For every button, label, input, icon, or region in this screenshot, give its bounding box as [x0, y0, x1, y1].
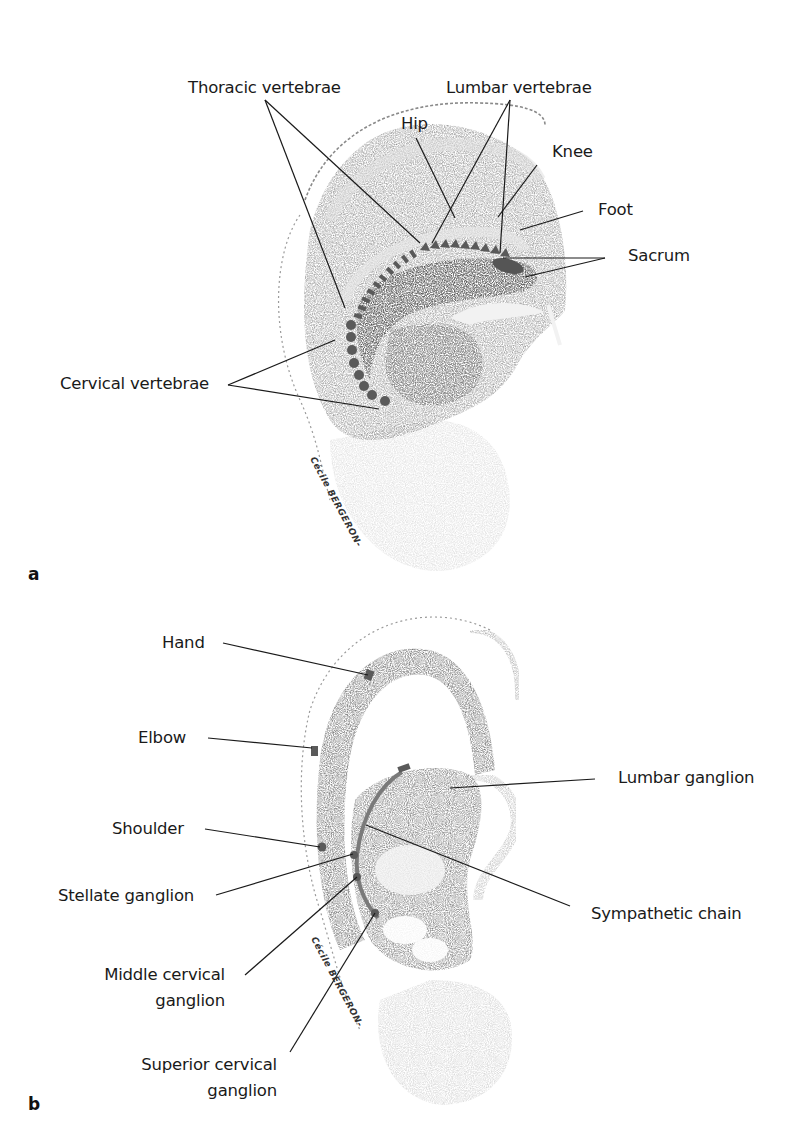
panel-letter-a: a [28, 564, 39, 584]
panel-a-ear-spine-map: Thoracic vertebrae Lumbar vertebrae Hip … [0, 0, 788, 600]
label-lumbar-ganglion: Lumbar ganglion [618, 768, 754, 788]
label-lumbar-vertebrae: Lumbar vertebrae [446, 78, 592, 98]
label-middle-cervical-ganglion-line2: ganglion [100, 991, 225, 1011]
label-superior-cervical-ganglion-line2: ganglion [120, 1081, 277, 1101]
label-elbow: Elbow [138, 728, 186, 748]
label-shoulder: Shoulder [112, 819, 184, 839]
label-stellate-ganglion: Stellate ganglion [58, 886, 194, 906]
label-sacrum: Sacrum [628, 246, 690, 266]
ear-illustration-b [0, 600, 788, 1145]
label-hand: Hand [162, 633, 205, 653]
label-middle-cervical-ganglion-line1: Middle cervical [100, 965, 225, 985]
label-sympathetic-chain: Sympathetic chain [591, 904, 742, 924]
label-knee: Knee [552, 142, 593, 162]
panel-b-ear-limb-ganglion-map: Hand Elbow Shoulder Stellate ganglion Mi… [0, 600, 788, 1145]
label-cervical-vertebrae: Cervical vertebrae [60, 374, 209, 394]
label-hip: Hip [401, 114, 428, 134]
label-superior-cervical-ganglion-line1: Superior cervical [120, 1055, 277, 1075]
label-foot: Foot [598, 200, 633, 220]
label-thoracic-vertebrae: Thoracic vertebrae [188, 78, 341, 98]
ear-illustration-a [0, 0, 788, 600]
label-middle-cervical-ganglion: Middle cervical ganglion [100, 965, 225, 1011]
label-superior-cervical-ganglion: Superior cervical ganglion [120, 1055, 277, 1101]
panel-letter-b: b [28, 1094, 40, 1114]
